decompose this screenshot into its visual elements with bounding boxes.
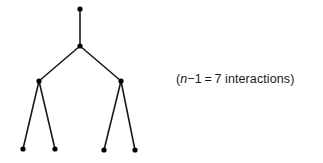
tree-edge: [39, 81, 55, 149]
tree-node-right: [118, 78, 123, 83]
interactions-caption: (n−1 = 7 interactions): [176, 72, 294, 86]
tree-node-root: [77, 6, 82, 11]
tree-edge: [104, 81, 121, 150]
tree-node-n1: [77, 43, 82, 48]
tree-nodes: [20, 6, 137, 152]
tree-node-leaf1: [20, 146, 25, 151]
tree-node-left: [36, 78, 41, 83]
tree-edge: [121, 81, 135, 150]
tree-node-leaf4: [132, 147, 137, 152]
tree-edge: [80, 46, 121, 81]
tree-node-leaf2: [52, 146, 57, 151]
tree-node-leaf3: [101, 147, 106, 152]
tree-edge: [23, 81, 39, 149]
tree-edge: [39, 46, 80, 81]
caption-expression: −1 = 7 interactions): [187, 72, 294, 86]
